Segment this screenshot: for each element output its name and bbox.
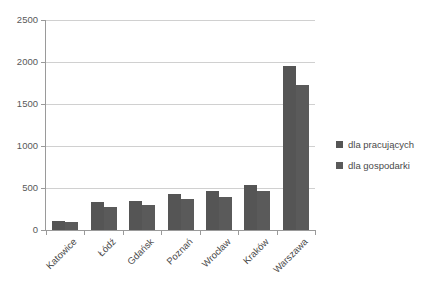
legend-swatch-icon (336, 141, 343, 148)
x-axis-label-gdask: Gdańsk (113, 236, 156, 279)
y-tick-mark (41, 104, 46, 105)
y-tick-mark (41, 188, 46, 189)
x-axis-label-krakw: Kraków (228, 236, 271, 279)
bar-warszawa-2 (296, 85, 309, 230)
y-axis-tick-label: 0 (0, 224, 38, 235)
y-axis-tick-label: 1500 (0, 98, 38, 109)
gridline (46, 20, 315, 21)
x-tick-mark (123, 231, 124, 235)
bar-chart: 05001000150020002500 KatowiceŁódźGdańskP… (0, 0, 433, 294)
gridline (46, 104, 315, 105)
bar-wrocaw-1 (206, 191, 219, 230)
x-tick-mark (315, 231, 316, 235)
legend-item-label: dla gospodarki (348, 161, 410, 171)
bar-krakw-2 (257, 191, 270, 230)
legend-item-label: dla pracujących (348, 140, 414, 150)
x-tick-mark (277, 231, 278, 235)
x-axis-label-pozna: Poznań (151, 236, 194, 279)
bar-warszawa-1 (283, 66, 296, 230)
legend-swatch-icon (336, 162, 343, 169)
y-axis-tick-label: 2500 (0, 14, 38, 25)
bar-gdask-1 (129, 201, 142, 230)
y-tick-mark (41, 20, 46, 21)
bar-pozna-1 (168, 194, 181, 230)
y-tick-mark (41, 62, 46, 63)
y-axis-line (45, 20, 46, 231)
bar-pozna-2 (181, 199, 194, 230)
bar-katowice-1 (52, 221, 65, 230)
legend-item-1[interactable]: dla pracujących (336, 140, 414, 150)
x-tick-mark (238, 231, 239, 235)
gridline (46, 146, 315, 147)
y-axis-tick-label: 2000 (0, 56, 38, 67)
gridline (46, 188, 315, 189)
x-axis-label-d: Łódź (74, 236, 117, 279)
x-tick-mark (46, 231, 47, 235)
x-tick-mark (84, 231, 85, 235)
bar-wrocaw-2 (219, 197, 232, 230)
legend-item-2[interactable]: dla gospodarki (336, 161, 414, 171)
chart-legend: dla pracującychdla gospodarki (336, 140, 414, 181)
bar-d-1 (91, 202, 104, 230)
y-axis-tick-label: 500 (0, 182, 38, 193)
x-tick-mark (200, 231, 201, 235)
bar-katowice-2 (65, 222, 78, 230)
y-axis-tick-label: 1000 (0, 140, 38, 151)
x-tick-mark (161, 231, 162, 235)
x-axis-label-wrocaw: Wrocław (190, 236, 233, 279)
x-axis-label-warszawa: Warszawa (266, 236, 309, 279)
x-axis-line (45, 230, 316, 231)
gridline (46, 62, 315, 63)
bar-d-2 (104, 207, 117, 230)
bar-krakw-1 (244, 185, 257, 230)
y-tick-mark (41, 146, 46, 147)
plot-area (46, 20, 315, 230)
x-axis-label-katowice: Katowice (36, 236, 79, 279)
bar-gdask-2 (142, 205, 155, 230)
